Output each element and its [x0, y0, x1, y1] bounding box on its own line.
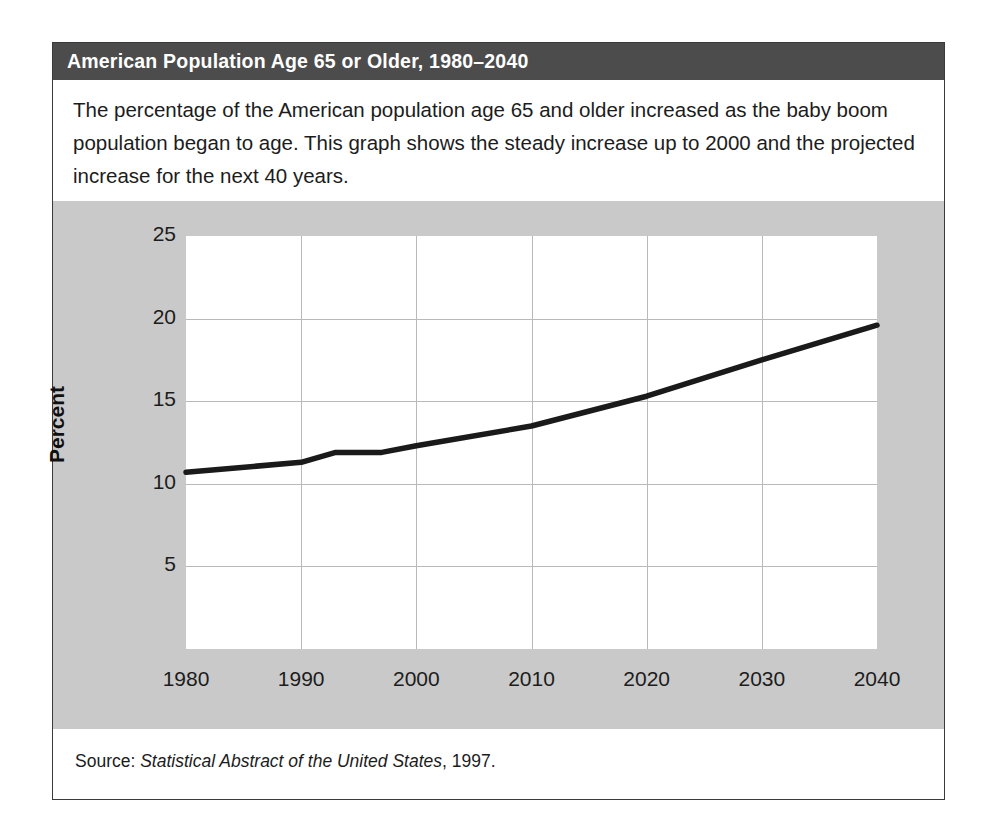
- figure-title: American Population Age 65 or Older, 198…: [67, 50, 529, 73]
- data-line-chart: [186, 236, 877, 649]
- source-suffix: , 1997.: [442, 751, 496, 771]
- figure-source-block: Source: Statistical Abstract of the Unit…: [53, 729, 944, 799]
- x-tick-label: 2020: [602, 667, 692, 691]
- y-tick-label: 25: [116, 222, 176, 246]
- y-axis-title: Percent: [45, 386, 69, 463]
- figure-description: The percentage of the American populatio…: [73, 93, 922, 192]
- figure-description-block: The percentage of the American populatio…: [53, 80, 944, 201]
- figure-title-bar: American Population Age 65 or Older, 198…: [53, 43, 944, 80]
- x-tick-label: 1980: [141, 667, 231, 691]
- x-tick-label: 2000: [371, 667, 461, 691]
- y-tick-label: 10: [116, 470, 176, 494]
- x-tick-label: 2040: [832, 667, 922, 691]
- source-publication-title: Statistical Abstract of the United State…: [140, 751, 442, 771]
- x-tick-label: 2010: [487, 667, 577, 691]
- figure-source: Source: Statistical Abstract of the Unit…: [75, 751, 944, 772]
- y-tick-label: 5: [116, 552, 176, 576]
- source-prefix: Source:: [75, 751, 140, 771]
- x-tick-label: 1990: [256, 667, 346, 691]
- data-series-line: [186, 325, 877, 472]
- y-tick-label: 15: [116, 387, 176, 411]
- figure-panel: American Population Age 65 or Older, 198…: [52, 42, 945, 800]
- chart-area: Percent 510152025 1980199020002010202020…: [53, 201, 944, 729]
- y-tick-label: 20: [116, 305, 176, 329]
- plot-frame: [186, 236, 877, 649]
- x-tick-label: 2030: [717, 667, 807, 691]
